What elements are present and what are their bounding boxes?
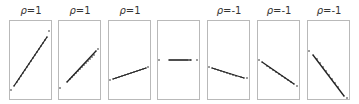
data-point xyxy=(139,69,141,71)
data-point xyxy=(93,54,95,56)
data-point xyxy=(322,66,324,68)
data-point xyxy=(308,50,310,52)
data-point xyxy=(184,59,186,61)
panel-frame xyxy=(208,21,250,100)
scatter-panel-4 xyxy=(157,4,201,100)
data-point xyxy=(46,36,48,38)
scatter-panel-1: ρ=1 xyxy=(9,4,53,100)
data-point xyxy=(211,67,213,69)
rho-value: =-1 xyxy=(323,5,341,16)
panel-frame xyxy=(258,21,300,100)
data-point xyxy=(258,59,260,61)
data-point xyxy=(269,67,271,69)
panel-frame xyxy=(59,21,101,100)
data-point xyxy=(235,75,237,77)
plot-area xyxy=(157,20,201,100)
data-point xyxy=(176,59,178,61)
data-point xyxy=(312,54,314,56)
data-point xyxy=(337,86,339,88)
data-point xyxy=(71,76,73,78)
data-point xyxy=(261,61,263,63)
plot-area xyxy=(207,20,251,100)
data-point xyxy=(142,68,144,70)
plot-area xyxy=(307,20,351,100)
data-point xyxy=(136,70,138,72)
data-point xyxy=(40,45,42,47)
data-point xyxy=(13,85,15,87)
data-point xyxy=(334,82,336,84)
data-point xyxy=(272,69,274,71)
data-point xyxy=(112,78,114,80)
data-point xyxy=(226,72,228,74)
data-point xyxy=(24,69,26,71)
data-point xyxy=(208,66,210,68)
data-point xyxy=(10,89,12,91)
data-point xyxy=(266,65,268,67)
data-point xyxy=(69,78,71,80)
panel-frame xyxy=(308,21,350,100)
data-point xyxy=(170,59,172,61)
data-point xyxy=(89,58,91,60)
scatter-panel-6: ρ=-1 xyxy=(257,4,301,100)
data-point xyxy=(75,72,77,74)
data-point xyxy=(243,77,245,79)
data-point xyxy=(220,70,222,72)
data-point xyxy=(95,50,97,52)
scatter-panel-5: ρ=-1 xyxy=(207,4,251,100)
data-point xyxy=(316,58,318,60)
data-point xyxy=(240,76,242,78)
data-point xyxy=(36,51,38,53)
panel-frame xyxy=(109,21,151,100)
data-point xyxy=(229,73,231,75)
rho-value: =1 xyxy=(76,5,91,16)
plot-area xyxy=(108,20,152,100)
data-point xyxy=(174,59,176,61)
data-point xyxy=(118,76,120,78)
data-point xyxy=(328,74,330,76)
data-point xyxy=(77,70,79,72)
data-point xyxy=(190,59,192,61)
rho-value: =1 xyxy=(27,5,42,16)
data-point xyxy=(275,71,277,73)
data-point xyxy=(66,81,68,83)
data-point xyxy=(290,81,292,83)
data-point xyxy=(130,72,132,74)
data-point xyxy=(109,79,111,81)
rho-value: =1 xyxy=(126,5,141,16)
data-point xyxy=(217,69,219,71)
data-point xyxy=(115,77,117,79)
data-point xyxy=(281,75,283,77)
data-point xyxy=(97,48,99,50)
data-point xyxy=(32,57,34,59)
data-point xyxy=(133,71,135,73)
data-point xyxy=(214,68,216,70)
data-point xyxy=(232,74,234,76)
panel-title: ρ=1 xyxy=(108,4,152,18)
data-point xyxy=(44,39,46,41)
data-point xyxy=(81,66,83,68)
data-point xyxy=(30,60,32,62)
data-point xyxy=(83,64,85,66)
data-point xyxy=(16,81,18,83)
scatter-panel-2: ρ=1 xyxy=(58,4,102,100)
data-point xyxy=(22,72,24,74)
data-point xyxy=(26,66,28,68)
data-point xyxy=(48,30,50,32)
data-point xyxy=(20,75,22,77)
data-point xyxy=(186,59,188,61)
correlation-figure: ρ=1ρ=1ρ=1ρ=-1ρ=-1ρ=-1 xyxy=(0,0,359,104)
data-point xyxy=(246,77,248,79)
data-point xyxy=(73,74,75,76)
rho-value: =-1 xyxy=(273,5,291,16)
data-point xyxy=(346,97,348,99)
plot-area xyxy=(257,20,301,100)
data-point xyxy=(79,68,81,70)
data-point xyxy=(91,56,93,58)
data-point xyxy=(293,83,295,85)
plot-area xyxy=(58,20,102,100)
panel-frame xyxy=(10,21,52,100)
data-point xyxy=(124,74,126,76)
data-point xyxy=(178,59,180,61)
data-point xyxy=(182,59,184,61)
data-point xyxy=(28,63,30,65)
